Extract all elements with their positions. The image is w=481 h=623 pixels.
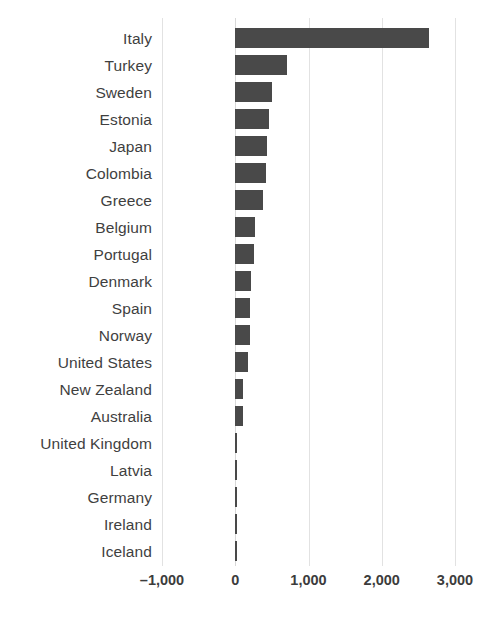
category-label: Norway bbox=[0, 322, 152, 349]
bar-row bbox=[162, 160, 455, 187]
bar bbox=[235, 271, 251, 291]
bar-row bbox=[162, 106, 455, 133]
bar bbox=[235, 379, 243, 399]
bar-row bbox=[162, 241, 455, 268]
bar bbox=[235, 82, 272, 102]
category-axis: ItalyTurkeySwedenEstoniaJapanColombiaGre… bbox=[0, 18, 152, 566]
x-tick-label: –1,000 bbox=[140, 572, 184, 588]
bar bbox=[235, 541, 236, 561]
category-label: United States bbox=[0, 349, 152, 376]
bar-row bbox=[162, 268, 455, 295]
bar-row bbox=[162, 349, 455, 376]
bar-row bbox=[162, 322, 455, 349]
category-label: Spain bbox=[0, 295, 152, 322]
bar bbox=[235, 298, 250, 318]
category-label: Sweden bbox=[0, 79, 152, 106]
plot-area bbox=[162, 18, 455, 566]
bar-row bbox=[162, 214, 455, 241]
category-label: Turkey bbox=[0, 52, 152, 79]
bar-row bbox=[162, 133, 455, 160]
category-label: Belgium bbox=[0, 214, 152, 241]
bar-row bbox=[162, 430, 455, 457]
bar bbox=[235, 109, 269, 129]
category-label: Australia bbox=[0, 403, 152, 430]
category-label: Denmark bbox=[0, 268, 152, 295]
category-label: Ireland bbox=[0, 511, 152, 538]
bar-row bbox=[162, 79, 455, 106]
bar bbox=[235, 244, 254, 264]
bar-row bbox=[162, 376, 455, 403]
bar bbox=[235, 136, 267, 156]
x-tick-label: 0 bbox=[231, 572, 239, 588]
x-tick-label: 1,000 bbox=[290, 572, 326, 588]
category-label: Germany bbox=[0, 484, 152, 511]
category-label: Greece bbox=[0, 187, 152, 214]
bar-row bbox=[162, 403, 455, 430]
category-label: Latvia bbox=[0, 457, 152, 484]
bar bbox=[235, 55, 287, 75]
clipped-title-artifact bbox=[0, 0, 481, 12]
category-label: Estonia bbox=[0, 106, 152, 133]
bar-row bbox=[162, 511, 455, 538]
bar bbox=[235, 28, 428, 48]
category-label: United Kingdom bbox=[0, 430, 152, 457]
x-tick-label: 2,000 bbox=[364, 572, 400, 588]
category-label: Colombia bbox=[0, 160, 152, 187]
x-tick-label: 3,000 bbox=[437, 572, 473, 588]
bar bbox=[235, 190, 263, 210]
x-axis: –1,00001,0002,0003,000 bbox=[162, 566, 455, 596]
bar bbox=[235, 406, 243, 426]
bar bbox=[235, 460, 236, 480]
bar-row bbox=[162, 295, 455, 322]
bar bbox=[235, 163, 266, 183]
category-label: New Zealand bbox=[0, 376, 152, 403]
bar-row bbox=[162, 538, 455, 565]
bar-row bbox=[162, 187, 455, 214]
chart-page: ItalyTurkeySwedenEstoniaJapanColombiaGre… bbox=[0, 0, 481, 623]
gridline-3000 bbox=[455, 18, 456, 566]
bar bbox=[235, 325, 249, 345]
bar-row bbox=[162, 25, 455, 52]
bar bbox=[235, 487, 236, 507]
category-label: Iceland bbox=[0, 538, 152, 565]
bar-row bbox=[162, 484, 455, 511]
bar bbox=[235, 352, 248, 372]
category-label: Portugal bbox=[0, 241, 152, 268]
bar bbox=[235, 514, 236, 534]
bar bbox=[235, 217, 255, 237]
bar-row bbox=[162, 52, 455, 79]
category-label: Italy bbox=[0, 25, 152, 52]
bar bbox=[235, 433, 236, 453]
bar-row bbox=[162, 457, 455, 484]
category-label: Japan bbox=[0, 133, 152, 160]
